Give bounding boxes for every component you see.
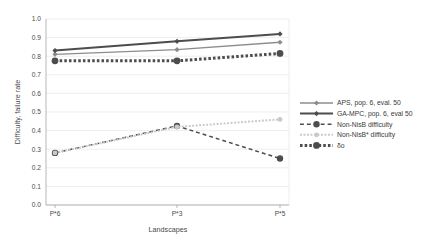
x-axis-title: Landscapes <box>149 225 188 234</box>
data-point-marker <box>52 57 59 64</box>
data-point-marker <box>175 124 180 129</box>
y-tick-label: 0.9 <box>32 34 41 41</box>
legend-marker-sample <box>314 132 319 137</box>
data-point-marker <box>277 50 284 57</box>
data-point-marker <box>53 151 58 156</box>
y-axis-title: Difficulty, failure rate <box>13 80 22 144</box>
data-point-marker <box>277 155 283 161</box>
data-point-marker <box>278 117 283 122</box>
legend-label: Non-NisB* difficulty <box>337 131 396 139</box>
y-tick-label: 0.5 <box>32 108 41 115</box>
y-tick-label: 0.6 <box>32 90 41 97</box>
y-tick-label: 0.8 <box>32 53 41 60</box>
y-tick-label: 0.3 <box>32 146 41 153</box>
legend-label: GA-MPC, pop. 6, eval 50 <box>337 110 413 118</box>
legend-marker-sample <box>313 142 320 149</box>
x-tick-label: P*3 <box>172 210 183 217</box>
y-tick-label: 0.2 <box>32 164 41 171</box>
y-tick-label: 1.0 <box>32 15 41 22</box>
y-tick-label: 0.4 <box>32 127 41 134</box>
line-chart: 1.00.90.80.70.60.50.40.30.20.10.0 P*6P*3… <box>0 0 423 245</box>
legend-label: APS, pop. 6, eval. 50 <box>337 99 401 107</box>
legend-label: δο <box>337 142 345 149</box>
y-tick-label: 0.0 <box>32 201 41 208</box>
y-tick-label: 0.7 <box>32 71 41 78</box>
x-tick-label: P*5 <box>275 210 286 217</box>
y-tick-label: 0.1 <box>32 183 41 190</box>
legend-label: Non-NisB difficulty <box>337 121 393 129</box>
data-point-marker <box>174 57 181 64</box>
x-tick-label: P*6 <box>50 210 61 217</box>
chart-figure: 1.00.90.80.70.60.50.40.30.20.10.0 P*6P*3… <box>0 0 423 245</box>
legend-marker-sample <box>313 121 319 127</box>
